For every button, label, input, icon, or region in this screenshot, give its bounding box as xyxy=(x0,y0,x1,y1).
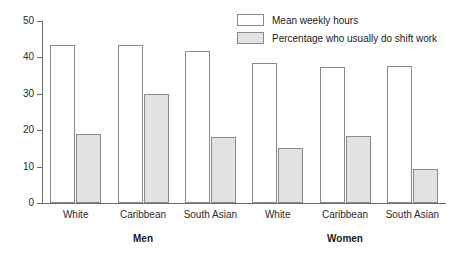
bar xyxy=(144,94,169,203)
y-axis-tick-label: 10 xyxy=(23,160,34,173)
y-axis-tick: 10 xyxy=(0,167,42,168)
y-axis-tick: 30 xyxy=(0,94,42,95)
bar xyxy=(211,137,236,203)
x-axis-category-label: South Asian xyxy=(379,208,446,221)
bar xyxy=(252,63,277,204)
x-axis-category-label: Caribbean xyxy=(311,208,378,221)
bar xyxy=(413,169,438,203)
bar xyxy=(185,51,210,203)
bar xyxy=(50,45,75,203)
x-axis-category-label: South Asian xyxy=(177,208,244,221)
x-axis-group-label: Women xyxy=(244,232,446,245)
y-axis-tick-label: 0 xyxy=(28,196,34,209)
x-axis-category-label: White xyxy=(42,208,109,221)
y-axis-tick-label: 20 xyxy=(23,123,34,136)
x-axis-line xyxy=(42,203,446,204)
legend-item-label: Percentage who usually do shift work xyxy=(272,32,437,45)
chart-legend: Mean weekly hours Percentage who usually… xyxy=(237,13,437,49)
legend-swatch-icon xyxy=(237,32,264,44)
x-axis-category-label: Caribbean xyxy=(109,208,176,221)
legend-item: Mean weekly hours xyxy=(237,13,437,27)
x-axis-group-label: Men xyxy=(42,232,244,245)
y-axis-tick-label: 50 xyxy=(23,14,34,27)
bar xyxy=(76,134,101,203)
legend-swatch-icon xyxy=(237,14,264,26)
y-axis-tick: 0 xyxy=(0,203,42,204)
y-axis-tick: 40 xyxy=(0,57,42,58)
legend-item-label: Mean weekly hours xyxy=(272,14,358,27)
y-axis-tick-mark xyxy=(37,203,42,204)
bar xyxy=(346,136,371,203)
y-axis-tick: 50 xyxy=(0,21,42,22)
y-axis-tick-label: 40 xyxy=(23,50,34,63)
y-axis-tick: 20 xyxy=(0,130,42,131)
legend-item: Percentage who usually do shift work xyxy=(237,31,437,45)
bar-chart: 01020304050 WhiteCaribbeanSouth AsianWhi… xyxy=(0,0,457,264)
x-axis-category-label: White xyxy=(244,208,311,221)
bar xyxy=(387,66,412,203)
bar xyxy=(278,148,303,203)
bar xyxy=(118,45,143,203)
y-axis-tick-label: 30 xyxy=(23,87,34,100)
bar xyxy=(320,67,345,203)
